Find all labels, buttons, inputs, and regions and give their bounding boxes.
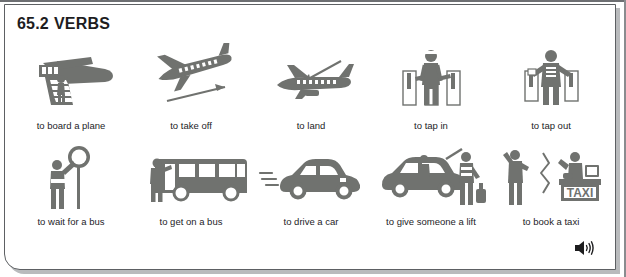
vocab-label: to get on a bus [160,217,223,227]
taxi-desk-booking-icon: TAXI [491,139,611,211]
vocab-label: to give someone a lift [386,217,476,227]
speaker-icon[interactable] [573,239,595,257]
vocabulary-grid: to board a plane [11,43,611,228]
vocab-item-wait-for-a-bus[interactable]: to wait for a bus [11,139,131,227]
car-with-luggage-icon [371,139,491,211]
vocab-label: to tap in [414,121,448,131]
car-driving-icon [251,139,371,211]
vocabulary-row: to wait for a bus [11,139,611,227]
worksheet-page: 65.2VERBS [0,0,626,277]
vocab-item-drive-a-car[interactable]: to drive a car [251,139,371,227]
vocabulary-row: to board a plane [11,43,611,131]
person-boarding-bus-icon [131,139,251,211]
taxi-sign-text: TAXI [567,186,593,200]
page-title: 65.2VERBS [17,15,110,33]
vocab-item-board-a-plane[interactable]: to board a plane [11,43,131,131]
vocab-item-tap-out[interactable]: to tap out [491,43,611,131]
vocab-label: to book a taxi [523,217,580,227]
vocab-label: to tap out [531,121,571,131]
vocab-item-book-a-taxi[interactable]: TAXI to book a taxi [491,139,611,227]
person-at-bus-stop-icon [11,139,131,211]
vocabulary-panel: 65.2VERBS [4,4,616,270]
vocab-label: to land [297,121,326,131]
plane-taking-off-icon [131,43,251,115]
turnstile-tap-out-icon [491,43,611,115]
vocab-item-land[interactable]: to land [251,43,371,131]
vocab-item-give-someone-a-lift[interactable]: to give someone a lift [371,139,491,227]
vocab-item-take-off[interactable]: to take off [131,43,251,131]
vocab-label: to take off [170,121,212,131]
page-title-number: 65.2 [17,15,49,32]
plane-with-boarding-stairs-icon [11,43,131,115]
sheet-top-rule [0,0,626,2]
page-title-text: VERBS [54,15,110,32]
plane-landing-icon [251,43,371,115]
vocab-label: to wait for a bus [37,217,104,227]
vocab-item-get-on-a-bus[interactable]: to get on a bus [131,139,251,227]
vocab-item-tap-in[interactable]: to tap in [371,43,491,131]
vocab-label: to board a plane [37,121,106,131]
turnstile-tap-in-icon [371,43,491,115]
vocab-label: to drive a car [284,217,339,227]
